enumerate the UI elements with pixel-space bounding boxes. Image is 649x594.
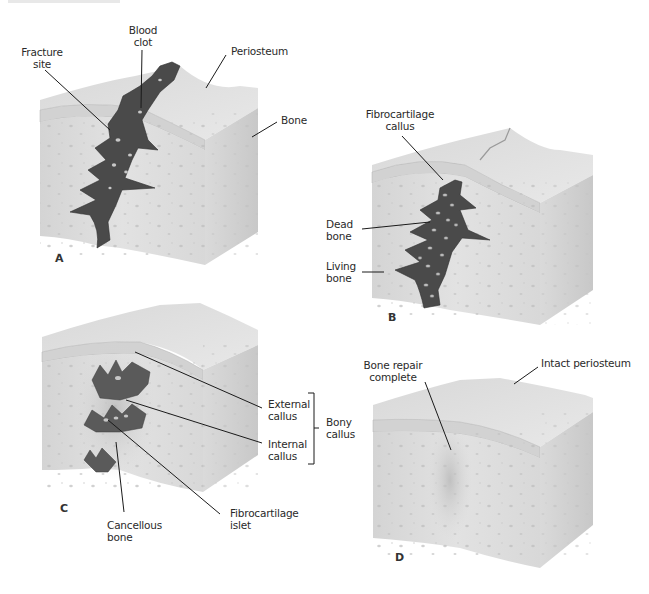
panel-a-block [40,62,258,265]
panel-a-letter: A [55,252,64,265]
label-blood-clot: Blood clot [126,24,160,48]
panel-d-letter: D [395,551,404,564]
label-living-bone: Living bone [326,260,356,284]
label-bone-repair-complete: Bone repair complete [360,359,426,383]
label-internal-callus: Internal callus [268,438,307,462]
bone-fracture-repair-figure: A B C D Blood clot Fracture site Periost… [0,0,649,594]
label-fibrocartilage-islet: Fibrocartilage islet [230,507,299,531]
panel-c-letter: C [60,502,68,515]
diagram-canvas [0,0,649,594]
label-intact-periosteum: Intact periosteum [541,357,631,369]
label-fibrocartilage-callus: Fibrocartilage callus [361,108,439,132]
label-cancellous-bone: Cancellous bone [107,519,162,543]
label-external-callus: External callus [268,398,310,422]
label-periosteum: Periosteum [231,45,288,57]
panel-b-block [372,128,593,325]
label-bony-callus: Bony callus [326,416,355,440]
panel-c-block [42,303,258,492]
label-fracture-site: Fracture site [18,46,66,70]
label-dead-bone: Dead bone [326,218,353,242]
panel-b-letter: B [388,311,396,324]
label-bone: Bone [281,114,307,126]
panel-d-block [373,378,593,568]
